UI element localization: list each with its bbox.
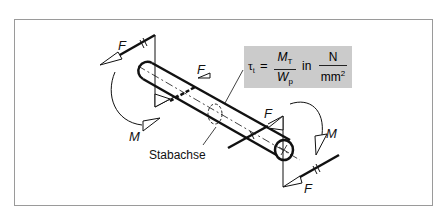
label-force-shaft: F (197, 62, 206, 77)
left-force-couple (100, 35, 210, 107)
axis-leader-line (203, 127, 216, 145)
label-moment-right: M (326, 126, 337, 141)
label-moment-left: M (129, 129, 140, 144)
torsion-diagram: F F F F M M Stabachse (0, 0, 445, 217)
label-axis: Stabachse (149, 148, 206, 162)
label-force-right-top: F (264, 106, 273, 121)
formula-lhs: τt (248, 59, 255, 75)
formula-box: τt = MT Wp in N mm2 (244, 46, 352, 88)
formula-in: in (302, 59, 311, 73)
formula-leader-line (225, 70, 243, 103)
formula-fraction: MT Wp (274, 51, 296, 89)
label-force-right-bottom: F (304, 181, 313, 196)
label-force-left-top: F (118, 38, 127, 53)
formula-equals: = (260, 58, 268, 73)
formula-unit: N mm2 (319, 51, 347, 84)
